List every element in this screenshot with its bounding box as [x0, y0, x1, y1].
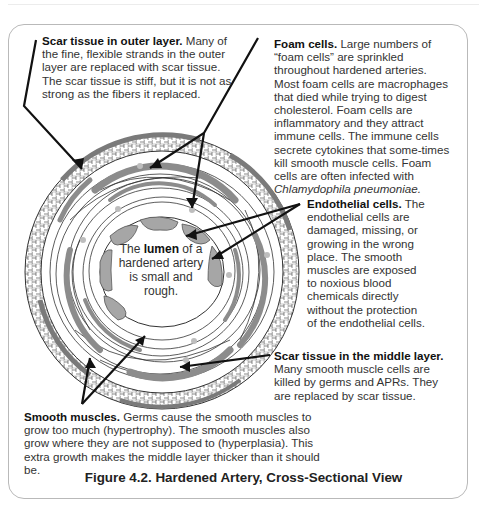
note-outer-scar-tissue: Scar tissue in outer layer. Many of the …	[42, 34, 232, 100]
lumen-label-bold: lumen	[144, 242, 179, 256]
lumen-label-prefix: The	[120, 242, 144, 256]
note-outer-scar-title: Scar tissue in outer layer.	[42, 34, 182, 47]
note-middle-scar-title: Scar tissue in the middle layer.	[274, 349, 443, 362]
note-smooth-muscles: Smooth muscles. Germs cause the smooth m…	[24, 410, 336, 476]
lumen-label: The lumen of a hardened artery is small …	[113, 242, 209, 298]
note-endothelial-title: Endothelial cells.	[307, 197, 402, 210]
note-foam-cells: Foam cells. Large numbers of “foam cells…	[274, 37, 454, 195]
figure-caption: Figure 4.2. Hardened Artery, Cross-Secti…	[0, 470, 487, 485]
note-foam-cells-title: Foam cells.	[274, 37, 337, 50]
note-middle-scar-tissue: Scar tissue in the middle layer. Many sm…	[274, 349, 450, 402]
note-endothelial-cells: Endothelial cells. The endothelial cells…	[307, 197, 427, 329]
note-smooth-muscles-title: Smooth muscles.	[24, 410, 120, 423]
note-foam-cells-organism: Chlamydophila pneumoniae.	[274, 182, 421, 195]
note-foam-cells-body: Large numbers of “foam cells” are sprink…	[274, 37, 449, 182]
note-endothelial-body: The endothelial cells are damaged, missi…	[307, 197, 425, 329]
note-middle-scar-body: Many smooth muscle cells are killed by g…	[274, 362, 438, 401]
